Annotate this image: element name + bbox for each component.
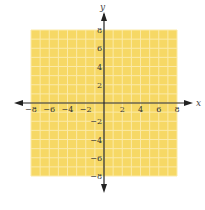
y-axis-label: y <box>99 2 106 12</box>
y-tick-label: −4 <box>90 136 102 145</box>
x-tick-label: 6 <box>156 105 161 114</box>
x-tick-label: 8 <box>174 105 179 114</box>
y-axis-up-arrow-icon <box>101 12 107 21</box>
y-tick-label: −2 <box>90 117 102 126</box>
x-tick-label: 4 <box>138 105 143 114</box>
x-tick-label: 2 <box>120 105 125 114</box>
x-axis-right-arrow-icon <box>184 100 193 106</box>
y-tick-label: 6 <box>97 44 102 53</box>
x-tick-label: −6 <box>43 105 55 114</box>
y-tick-label: −8 <box>90 172 102 181</box>
x-tick-label: −2 <box>80 105 92 114</box>
x-tick-label: −8 <box>25 105 37 114</box>
y-tick-label: 8 <box>97 26 102 35</box>
x-tick-label: −4 <box>62 105 74 114</box>
y-tick-label: 2 <box>97 81 102 90</box>
y-tick-label: −6 <box>90 154 102 163</box>
x-axis-label: x <box>196 98 201 108</box>
y-axis-down-arrow-icon <box>101 184 107 193</box>
x-axis-left-arrow-icon <box>14 100 23 106</box>
y-tick-label: 4 <box>97 63 102 72</box>
coordinate-plane: −8−6−4−224688642−2−4−6−8 x y <box>0 0 205 210</box>
